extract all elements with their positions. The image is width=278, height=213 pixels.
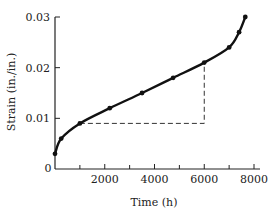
x-tick-label: 6000 xyxy=(190,173,218,186)
data-point-marker xyxy=(77,121,82,126)
y-axis-label: Strain (in./in.) xyxy=(5,53,18,131)
data-point-marker xyxy=(59,136,64,141)
data-point-marker xyxy=(237,30,242,35)
y-tick-label: 0.02 xyxy=(26,62,51,75)
x-tick-label: 2000 xyxy=(91,173,119,186)
data-point-marker xyxy=(243,15,248,20)
y-tick-label: 0.03 xyxy=(26,11,51,24)
data-series xyxy=(53,15,248,157)
axes: 020004000600080000.010.020.03 xyxy=(26,11,269,186)
data-point-marker xyxy=(53,151,58,156)
data-point-marker xyxy=(227,45,232,50)
creep-curve-chart: 020004000600080000.010.020.03 Time (h) S… xyxy=(0,0,278,213)
x-tick-label: 0 xyxy=(45,162,52,175)
x-tick-label: 8000 xyxy=(240,173,268,186)
data-point-marker xyxy=(107,106,112,111)
y-tick-label: 0.01 xyxy=(26,112,51,125)
creep-curve-line xyxy=(55,17,245,154)
x-tick-label: 4000 xyxy=(141,173,169,186)
data-point-marker xyxy=(140,91,145,96)
data-point-marker xyxy=(202,60,207,65)
x-axis-label: Time (h) xyxy=(131,196,178,209)
data-point-marker xyxy=(171,75,176,80)
